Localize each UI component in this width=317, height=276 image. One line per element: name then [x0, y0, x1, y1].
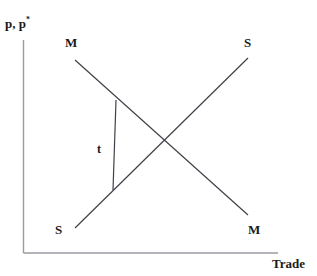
- y-axis-label-text: p, p: [5, 16, 26, 31]
- tariff-wedge-label: t: [97, 143, 101, 155]
- y-axis-label: p, p*: [5, 17, 30, 30]
- y-axis-label-superscript: *: [26, 15, 30, 24]
- trade-diagram-figure: p, p* Trade M S S M t: [0, 0, 317, 276]
- curve-label-s-top: S: [244, 36, 251, 49]
- curve-label-m-top: M: [65, 36, 77, 49]
- chart-canvas: [0, 0, 317, 276]
- curve-label-m-bottom: M: [248, 223, 260, 236]
- curve-label-s-bottom: S: [55, 223, 62, 236]
- x-axis-label: Trade: [272, 257, 305, 270]
- tariff-wedge-segment: [113, 100, 116, 190]
